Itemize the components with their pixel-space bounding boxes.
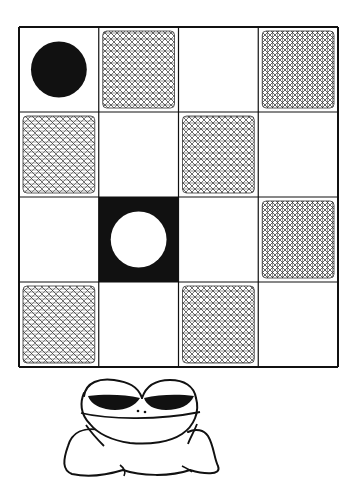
board-cell-white (19, 197, 99, 282)
checkerboard (19, 27, 338, 367)
crosshatch-fill (23, 116, 95, 193)
illustration-canvas (0, 0, 356, 498)
crosshatch-fill (103, 31, 175, 108)
board-cell-white (258, 112, 338, 197)
board-cell-white (179, 197, 259, 282)
crosshatch-fill (262, 31, 334, 108)
frog-left-nostril (137, 410, 140, 413)
board-cell-white (99, 112, 179, 197)
crosshatch-fill (183, 116, 255, 193)
crosshatch-fill (23, 286, 95, 363)
white-disc-piece (111, 211, 167, 267)
black-disc-piece (31, 41, 87, 97)
board-cell-white (258, 282, 338, 367)
board-cell-white (99, 282, 179, 367)
board-cell-white (179, 27, 259, 112)
crosshatch-fill (183, 286, 255, 363)
crosshatch-fill (262, 201, 334, 278)
frog-right-nostril (144, 411, 147, 414)
